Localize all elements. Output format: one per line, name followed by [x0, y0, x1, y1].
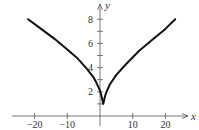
x-axis-label: x: [190, 110, 196, 122]
axes: xy−20−1010202468: [12, 0, 196, 130]
x-tick-label: −10: [59, 119, 75, 130]
series-line-curve: [28, 19, 175, 104]
chart: xy−20−1010202468: [0, 0, 199, 130]
x-tick-label: 20: [160, 119, 170, 130]
x-tick-label: 10: [128, 119, 138, 130]
plot-area: [28, 19, 175, 104]
y-tick-label: 8: [88, 14, 93, 25]
y-tick-label: 6: [88, 38, 93, 49]
y-tick-label: 2: [88, 86, 93, 97]
y-axis-label: y: [104, 0, 110, 11]
x-tick-label: −20: [27, 119, 43, 130]
